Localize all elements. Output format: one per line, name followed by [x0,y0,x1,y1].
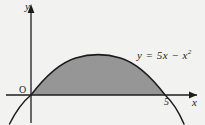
equation-lhs: y [137,49,142,61]
equation-term-linear: 5x [157,49,168,61]
equation-equals-sign: = [145,49,154,61]
curve-equation-label: y = 5x − x2 [137,49,191,61]
y-axis-label: y [25,1,30,12]
x-axis-label: x [192,97,197,108]
parabola-figure: y x O 5 y = 5x − x2 [0,0,205,125]
origin-label: O [19,85,26,95]
equation-minus-sign: − [171,49,180,61]
plot-canvas [0,0,205,125]
x-tick-label-5: 5 [164,97,169,107]
equation-term-quadratic-exponent: 2 [188,48,192,56]
